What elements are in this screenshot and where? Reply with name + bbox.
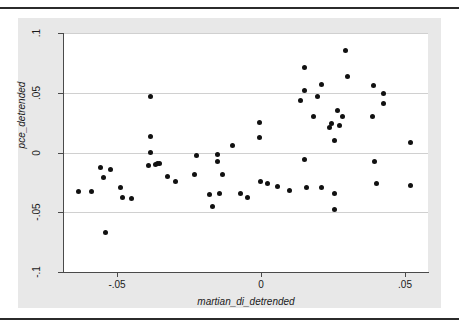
scatter-point bbox=[207, 192, 212, 197]
scatter-point bbox=[210, 204, 215, 209]
scatter-point bbox=[257, 120, 262, 125]
x-axis-line bbox=[63, 272, 429, 273]
y-tick-label: -.05 bbox=[14, 206, 58, 218]
y-tick-label-text: .1 bbox=[30, 11, 42, 55]
scatter-point bbox=[220, 172, 225, 177]
scatter-point bbox=[372, 159, 377, 164]
gridline bbox=[64, 93, 428, 94]
scatter-point bbox=[319, 185, 324, 190]
scatter-point bbox=[89, 189, 94, 194]
scatter-point bbox=[265, 181, 270, 186]
scatter-point bbox=[245, 195, 250, 200]
scatter-point bbox=[343, 48, 348, 53]
scatter-point bbox=[157, 161, 162, 166]
scatter-point bbox=[371, 83, 376, 88]
scatter-point bbox=[173, 179, 178, 184]
x-axis-title: martian_di_detrended bbox=[64, 296, 428, 307]
scatter-point bbox=[332, 191, 337, 196]
y-axis-title: pce_detrended bbox=[14, 70, 28, 160]
scatter-point bbox=[332, 138, 337, 143]
scatter-point bbox=[332, 207, 337, 212]
x-tick-label: 0 bbox=[231, 279, 291, 290]
gridline bbox=[64, 33, 428, 34]
scatter-point bbox=[192, 172, 197, 177]
figure-root: -.1-.050.05.1 -.050.05 pce_detrended mar… bbox=[0, 0, 459, 328]
y-tick-label-text: -.05 bbox=[30, 190, 42, 234]
scatter-point bbox=[329, 121, 334, 126]
scatter-point bbox=[381, 91, 386, 96]
scatter-point bbox=[120, 195, 125, 200]
y-tick-label-text: .05 bbox=[30, 71, 42, 115]
scatter-point bbox=[302, 65, 307, 70]
scatter-point bbox=[287, 188, 292, 193]
scatter-point bbox=[258, 179, 263, 184]
x-tick-label: -.05 bbox=[87, 279, 147, 290]
y-tick-label: -.1 bbox=[14, 266, 58, 278]
scatter-point bbox=[337, 123, 342, 128]
scatter-point bbox=[319, 82, 324, 87]
scatter-point bbox=[148, 94, 153, 99]
scatter-point bbox=[381, 101, 386, 106]
bottom-divider-rule bbox=[0, 318, 459, 320]
scatter-point bbox=[311, 114, 316, 119]
y-tick-label: .1 bbox=[14, 27, 58, 39]
y-tick-label-text: 0 bbox=[30, 131, 42, 175]
y-axis-line bbox=[63, 33, 64, 273]
scatter-point bbox=[340, 114, 345, 119]
scatter-point bbox=[238, 191, 243, 196]
scatter-point bbox=[215, 152, 220, 157]
y-tick-label-text: -.1 bbox=[30, 250, 42, 294]
scatter-point bbox=[408, 183, 413, 188]
top-divider-rule bbox=[0, 7, 459, 9]
scatter-point bbox=[165, 174, 170, 179]
x-tick-label: .05 bbox=[375, 279, 435, 290]
scatter-point bbox=[215, 159, 220, 164]
scatter-point bbox=[148, 134, 153, 139]
scatter-point bbox=[304, 185, 309, 190]
gridline bbox=[64, 153, 428, 154]
scatter-point bbox=[257, 135, 262, 140]
gridline bbox=[64, 212, 428, 213]
scatter-point bbox=[408, 140, 413, 145]
